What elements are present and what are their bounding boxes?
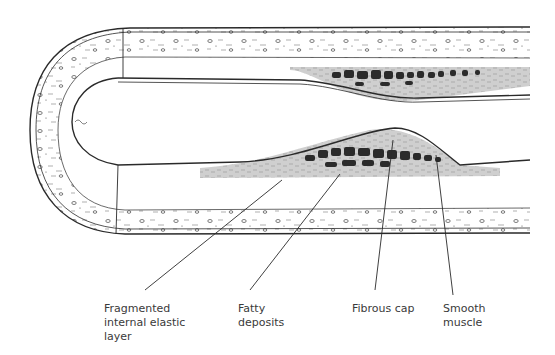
label-fibrous-cap: Fibrous cap — [352, 302, 415, 316]
leader-fragmented — [145, 180, 282, 290]
label-smooth-muscle: Smooth muscle — [443, 302, 485, 330]
label-fragmented-internal-elastic-layer: Fragmented internal elastic layer — [104, 302, 185, 344]
label-fatty-deposits: Fatty deposits — [238, 302, 284, 330]
